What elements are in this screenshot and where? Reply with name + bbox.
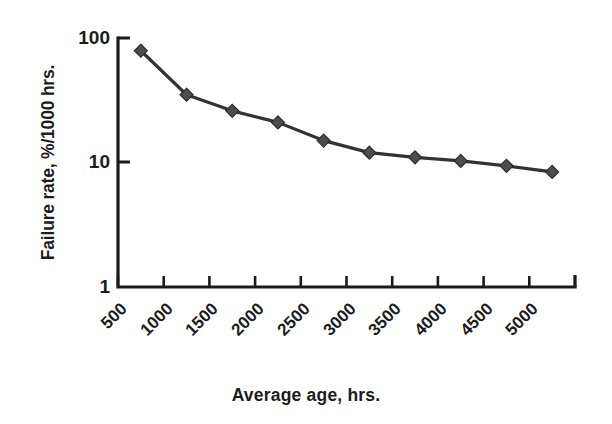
chart-figure: Failure rate, %/1000 hrs. 100 10 1 50010… <box>0 0 612 424</box>
x-axis-title: Average age, hrs. <box>0 385 612 406</box>
data-point-marker <box>454 154 467 167</box>
data-point-marker <box>226 104 239 117</box>
series-line <box>141 51 552 172</box>
data-point-marker <box>546 165 559 178</box>
data-point-marker <box>500 159 513 172</box>
data-point-marker <box>317 134 330 147</box>
plot-area <box>0 0 612 424</box>
data-point-marker <box>363 146 376 159</box>
data-point-marker <box>271 116 284 129</box>
data-point-marker <box>409 151 422 164</box>
series-markers <box>134 44 558 178</box>
x-axis-tick-marks <box>118 276 575 287</box>
